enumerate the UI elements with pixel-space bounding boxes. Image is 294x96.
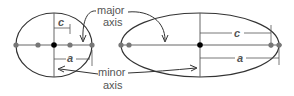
right-focus-point-2 [268, 42, 273, 47]
right-center-point [197, 42, 203, 48]
right-a-label: a [237, 52, 243, 64]
diagram-canvas: c a c a major axis minor axi [0, 0, 294, 96]
right-focus-point [126, 42, 131, 47]
minor-axis-label-line1: minor [98, 66, 126, 78]
left-vertex-point-2 [89, 42, 94, 47]
major-axis-label-line1: major [97, 4, 125, 16]
major-arrow-right [128, 12, 165, 40]
left-focus-point-2 [67, 42, 72, 47]
minor-arrow-right [128, 68, 196, 73]
ellipse-diagram: c a c a major axis minor axi [0, 0, 294, 96]
right-c-label: c [234, 27, 240, 39]
left-focus-point [35, 42, 40, 47]
right-vertex-point-2 [276, 42, 281, 47]
right-ellipse-group: c a [118, 13, 282, 77]
left-ellipse-group: c a [13, 13, 94, 77]
left-vertex-point [13, 42, 18, 47]
left-a-label: a [67, 52, 73, 64]
major-axis-label-line2: axis [103, 16, 123, 28]
minor-axis-label-line2: axis [103, 79, 123, 91]
right-vertex-point [118, 42, 123, 47]
left-c-label: c [58, 16, 64, 28]
left-center-point [51, 42, 57, 48]
